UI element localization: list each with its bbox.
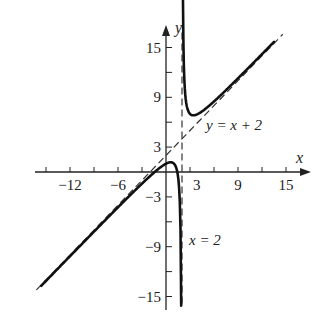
x-tick-label: −12: [58, 177, 81, 193]
x-axis-label: x: [295, 149, 303, 166]
x-tick-label: 15: [279, 177, 294, 193]
asymptotes: [36, 33, 282, 308]
y-axis-label: y: [173, 19, 183, 37]
y-tick-label: −9: [145, 239, 161, 255]
function-curve-branch: [183, 0, 274, 115]
axes: [35, 25, 311, 310]
y-tick-label: −15: [138, 289, 161, 305]
y-axis-arrow-icon: [162, 25, 170, 36]
slant-asymptote-label: y = x + 2: [204, 117, 263, 133]
x-tick-label: 9: [234, 177, 242, 193]
y-tick-label: 3: [154, 139, 162, 155]
function-graph: −12−639151593−3−9−15 x y y = x + 2 x = 2: [0, 0, 325, 332]
y-tick-label: −3: [145, 189, 161, 205]
x-axis-arrow-icon: [300, 168, 311, 176]
x-tick-label: 3: [193, 177, 201, 193]
x-tick-label: −6: [110, 177, 126, 193]
vertical-asymptote-label: x = 2: [188, 232, 221, 248]
y-tick-label: 9: [154, 89, 162, 105]
y-tick-label: 15: [146, 40, 161, 56]
